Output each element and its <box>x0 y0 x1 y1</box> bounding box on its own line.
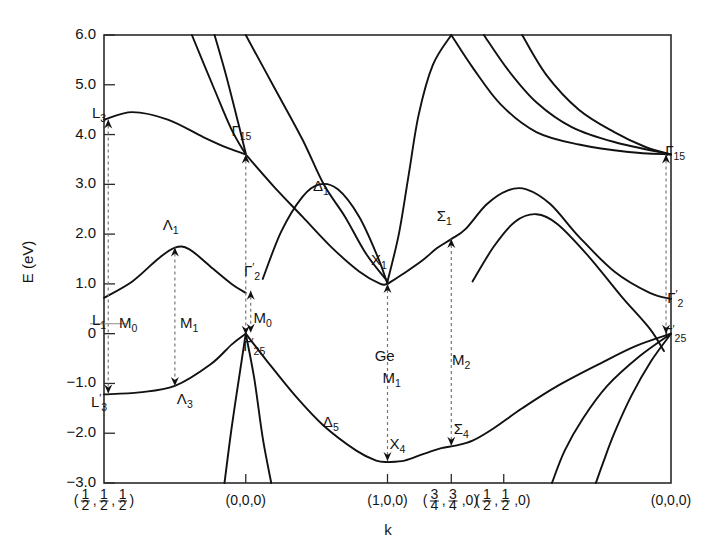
label-Lambda3-text: Λ3 <box>177 390 193 410</box>
y-tick-label: 5.0 <box>75 75 96 92</box>
band-curve <box>484 35 671 154</box>
x-tick-label: (0,0,0) <box>651 492 691 508</box>
label-Gamma15: Γ15 <box>232 122 252 142</box>
label-Gamma2-prime: Γ′2 <box>244 261 260 282</box>
x-tick-label: (12,12,0) <box>475 486 530 513</box>
label-Gamma25-prime-right-text: Γ′25 <box>664 323 686 344</box>
label-Lambda3: Λ3 <box>177 390 193 410</box>
band-curve <box>388 334 672 462</box>
band-curve <box>246 35 388 281</box>
band-curve <box>473 214 664 351</box>
label-Gamma25-prime-right: Γ′25 <box>664 323 686 344</box>
label-M2-Sigma-text: M2 <box>452 351 471 371</box>
band-curve <box>388 188 672 299</box>
band-curve <box>263 184 388 284</box>
y-axis-title: E (eV) <box>19 241 36 284</box>
y-tick-label: −1.0 <box>66 373 96 390</box>
label-M1-lambda-text: M1 <box>180 314 199 334</box>
fraction-denominator: 4 <box>449 497 457 513</box>
label-Sigma4: Σ4 <box>454 420 469 440</box>
label-M0-left: M0 <box>119 314 138 334</box>
x-tick-label-part: ,0) <box>514 492 530 508</box>
fraction-denominator: 2 <box>483 497 491 513</box>
label-Sigma1: Σ1 <box>437 207 452 227</box>
label-M0-gamma-text: M0 <box>254 309 273 329</box>
x-tick-label-part: , <box>442 492 446 508</box>
x-axis-title: k <box>384 521 392 538</box>
y-tick-label: 2.0 <box>75 224 96 241</box>
label-M1-X: M1 <box>383 369 402 389</box>
band-structure-figure: 6.05.04.03.02.01.00−1.0−2.0−3.0 (12,12,1… <box>0 0 727 548</box>
label-Lambda1-text: Λ1 <box>163 216 179 236</box>
label-L3-prime: L′3 <box>91 392 107 413</box>
label-Gamma15-right: Γ15 <box>665 142 685 162</box>
label-Gamma25-prime-text: Γ′25 <box>243 336 265 357</box>
label-Gamma15-text: Γ15 <box>232 122 252 142</box>
label-M1-X-text: M1 <box>383 369 402 389</box>
x-tick-label-part: ( <box>423 492 428 508</box>
band-structure-svg: 6.05.04.03.02.01.00−1.0−2.0−3.0 (12,12,1… <box>0 0 727 548</box>
label-L3-prime-text: L′3 <box>91 392 107 413</box>
label-X1: X1 <box>371 251 387 271</box>
label-Gamma2-prime-right: Γ′2 <box>667 288 683 309</box>
label-Gamma2-prime-right-text: Γ′2 <box>667 288 683 309</box>
x-tick-label: (12,12,12) <box>74 486 134 513</box>
plot-frame <box>104 35 671 483</box>
label-Gamma25-prime: Γ′25 <box>243 336 265 357</box>
band-curve <box>552 334 671 483</box>
y-tick-label: 3.0 <box>75 174 96 191</box>
fraction-denominator: 2 <box>82 497 90 513</box>
transition-arrow <box>242 154 250 334</box>
label-Delta1: Δ1 <box>313 177 329 197</box>
x-tick-label-part: , <box>111 492 115 508</box>
label-Lambda1: Λ1 <box>163 216 179 236</box>
label-M0-left-text: M0 <box>119 314 138 334</box>
x-tick-label-part: ) <box>130 492 135 508</box>
x-tick-label: (0,0,0) <box>226 492 266 508</box>
fraction-denominator: 4 <box>430 497 438 513</box>
x-tick-label-part: , <box>93 492 97 508</box>
band-curve <box>224 334 245 483</box>
transition-arrow <box>662 154 670 333</box>
transition-arrow <box>447 239 455 446</box>
x-tick-label-part: (1,0,0) <box>367 492 407 508</box>
label-M1-lambda: M1 <box>180 314 199 334</box>
label-M0-gamma: M0 <box>254 309 273 329</box>
label-Gamma2-prime-text: Γ′2 <box>244 261 260 282</box>
label-Delta1-text: Δ1 <box>313 177 329 197</box>
y-tick-label: 6.0 <box>75 25 96 42</box>
x-tick-label-part: ( <box>74 492 79 508</box>
x-tick-label-part: (0,0,0) <box>651 492 691 508</box>
label-Sigma4-text: Σ4 <box>454 420 469 440</box>
label-X4: X4 <box>389 435 405 455</box>
y-tick-label: −2.0 <box>66 423 96 440</box>
y-axis-ticks: 6.05.04.03.02.01.00−1.0−2.0−3.0 <box>66 25 115 490</box>
x-tick-label-part: (0,0,0) <box>226 492 266 508</box>
label-X1-text: X1 <box>371 251 387 271</box>
transition-arrow <box>171 248 179 386</box>
fraction-denominator: 2 <box>100 497 108 513</box>
y-tick-label: 4.0 <box>75 125 96 142</box>
x-tick-label: (1,0,0) <box>367 492 407 508</box>
transition-arrows <box>90 120 670 461</box>
band-curves <box>104 35 671 483</box>
x-axis-ticks: (12,12,12)(0,0,0)(1,0,0)(34,34,0)(12,12,… <box>74 474 691 513</box>
y-tick-label: 1.0 <box>75 274 96 291</box>
material-label: Ge <box>375 347 395 364</box>
label-M2-Sigma: M2 <box>452 351 471 371</box>
band-curve <box>246 334 388 462</box>
x-tick-label-part: , <box>494 492 498 508</box>
band-curve <box>104 112 246 154</box>
label-Gamma15-right-text: Γ15 <box>665 142 685 162</box>
band-curve <box>451 35 671 154</box>
fraction-denominator: 2 <box>119 497 127 513</box>
transition-arrow <box>104 120 112 394</box>
label-Sigma1-text: Σ1 <box>437 207 452 227</box>
band-curve <box>596 334 671 483</box>
label-X4-text: X4 <box>389 435 405 455</box>
fraction-denominator: 2 <box>502 497 510 513</box>
x-tick-label: (34,34,0) <box>423 486 478 513</box>
label-Delta5-text: Δ5 <box>323 413 339 433</box>
label-Delta5: Δ5 <box>323 413 339 433</box>
x-tick-label-part: ( <box>475 492 480 508</box>
